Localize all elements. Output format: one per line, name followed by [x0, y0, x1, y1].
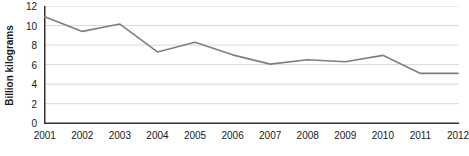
- x-axis-tick-label: 2009: [334, 130, 356, 141]
- x-axis-tick-label: 2010: [372, 130, 394, 141]
- y-axis-tick-label: 8: [31, 40, 37, 51]
- x-axis-tick-label: 2008: [297, 130, 319, 141]
- y-axis-tick-label: 4: [31, 79, 37, 90]
- y-axis-title-text: Billion kilograms: [4, 25, 15, 106]
- x-axis-tick-label: 2005: [184, 130, 206, 141]
- y-axis-tick-label: 10: [26, 20, 37, 31]
- y-axis-tick-label: 6: [31, 59, 37, 70]
- x-axis-tick-label: 2012: [447, 130, 469, 141]
- y-axis-tick-label: 2: [31, 98, 37, 109]
- x-axis-tick-label: 2003: [109, 130, 131, 141]
- x-axis-tick-label: 2002: [71, 130, 93, 141]
- y-axis-tick-label: 12: [26, 1, 37, 12]
- plot-area: [44, 6, 459, 124]
- x-axis-tick-label: 2004: [146, 130, 168, 141]
- y-axis-tick-label: 0: [31, 118, 37, 129]
- x-axis-tick-label: 2001: [34, 130, 56, 141]
- x-axis-tick-label: 2007: [259, 130, 281, 141]
- y-axis-tick-labels: 121086420: [18, 0, 40, 130]
- gridlines: [45, 6, 459, 104]
- x-axis-tick-label: 2011: [410, 130, 432, 141]
- x-axis-tick-label: 2006: [221, 130, 243, 141]
- plot-svg: [44, 6, 459, 124]
- x-axis-tick-labels: 2001200220032004200520062007200820092010…: [44, 130, 459, 150]
- y-axis-title: Billion kilograms: [0, 0, 18, 130]
